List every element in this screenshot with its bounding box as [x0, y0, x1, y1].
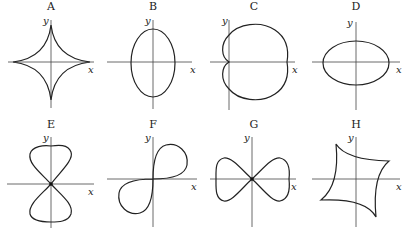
- panel-label-e: E: [47, 118, 55, 131]
- panel-e: E x y: [7, 118, 94, 228]
- panel-b: B x y: [107, 0, 196, 109]
- panel-label-a: A: [46, 0, 56, 13]
- panel-label-d: D: [352, 0, 361, 13]
- y-axis-label: y: [347, 132, 354, 143]
- panel-f: F x y: [107, 118, 197, 227]
- origin-dot: [250, 177, 254, 181]
- y-axis-label: y: [221, 15, 228, 26]
- y-axis-label: y: [42, 132, 49, 143]
- parametric-curves-figure: A x y B x y C x y D x y E x y: [0, 0, 408, 235]
- x-axis-label: x: [396, 181, 402, 192]
- x-axis-label: x: [191, 181, 197, 192]
- x-axis-label: x: [88, 64, 94, 75]
- panel-g: G x y: [210, 118, 297, 227]
- origin-dot: [49, 182, 53, 186]
- x-axis-label: x: [396, 64, 402, 75]
- panel-label-f: F: [149, 118, 157, 131]
- panel-h: H x y: [312, 118, 402, 227]
- panel-label-h: H: [351, 118, 361, 131]
- panel-label-c: C: [250, 0, 258, 13]
- x-axis-label: x: [291, 181, 297, 192]
- panel-label-g: G: [250, 118, 259, 131]
- panel-label-b: B: [149, 0, 157, 13]
- skewed-astroid-curve: [321, 144, 389, 217]
- x-axis-label: x: [292, 64, 298, 75]
- y-axis-label: y: [346, 17, 353, 28]
- x-axis-label: x: [190, 64, 196, 75]
- y-axis-label: y: [42, 15, 49, 26]
- y-axis-label: y: [144, 15, 151, 26]
- panel-c: C x y: [210, 0, 298, 110]
- panel-a: A x y: [8, 0, 94, 108]
- astroid-curve: [13, 25, 90, 100]
- panel-d: D x y: [312, 0, 402, 110]
- y-axis-label: y: [144, 132, 151, 143]
- y-axis-label: y: [243, 132, 250, 143]
- x-axis-label: x: [88, 186, 94, 197]
